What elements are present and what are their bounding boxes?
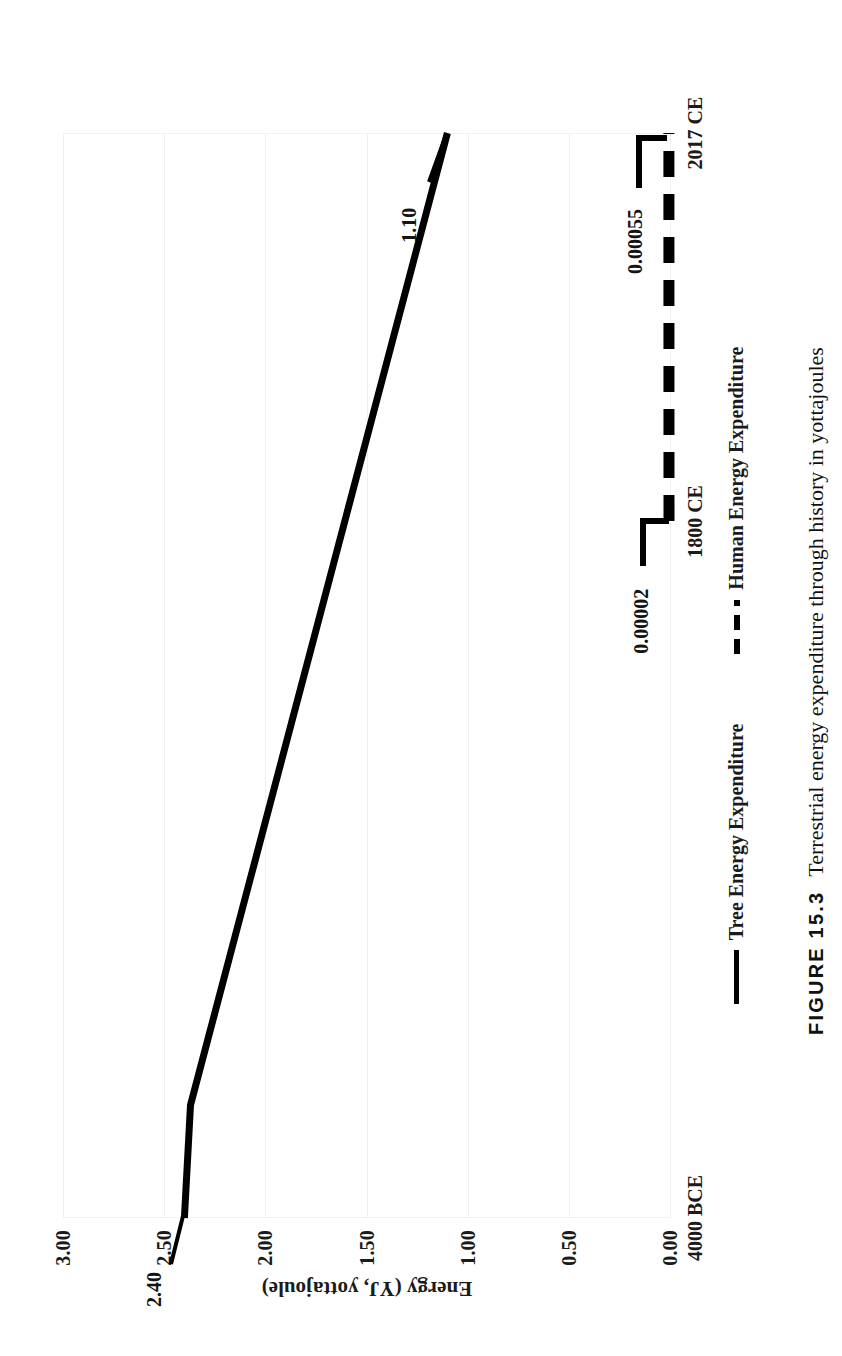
xtick-label-1800-ce: 1800 CE — [684, 485, 707, 558]
ytick-label-1-00: 1.00 — [456, 1230, 479, 1266]
figure-caption-text: Terrestrial energy expenditure through h… — [803, 347, 829, 877]
legend-item-tree-energy-expenditure[interactable]: Tree Energy Expenditure — [725, 724, 748, 1005]
xtick-label-2017-ce: 2017 CE — [684, 97, 707, 170]
data-label-human-1800: 0.00002 — [629, 589, 652, 654]
leader-line-0-00055 — [639, 138, 667, 188]
y-axis-title: Energy (YJ, yottajoule) — [261, 1276, 472, 1301]
ytick-label-1-50: 1.50 — [355, 1230, 378, 1266]
chart-plot-area: 3.00 2.50 2.00 1.50 1.00 0.50 0.00 Energ… — [63, 133, 670, 1218]
xtick-label-4000-bce: 4000 BCE — [684, 1175, 707, 1261]
legend-label-human-energy-expenditure: Human Energy Expenditure — [725, 347, 748, 590]
legend-key-dashed-line-icon — [734, 600, 740, 654]
ytick-label-0-50: 0.50 — [557, 1230, 580, 1266]
data-label-tree-end: 1.10 — [397, 208, 420, 243]
figure-page: 3.00 2.50 2.00 1.50 1.00 0.50 0.00 Energ… — [0, 0, 842, 1356]
leader-line-0-00002 — [643, 521, 669, 566]
figure-number: FIGURE 15.3 — [805, 891, 828, 1035]
chart-legend: Tree Energy Expenditure Human Energy Exp… — [725, 133, 748, 1218]
legend-item-human-energy-expenditure[interactable]: Human Energy Expenditure — [725, 347, 748, 654]
data-label-human-2017: 0.00055 — [624, 209, 647, 274]
ytick-label-3-00: 3.00 — [52, 1230, 75, 1266]
ytick-label-2-00: 2.00 — [254, 1230, 277, 1266]
series-layer — [63, 133, 670, 1218]
legend-key-solid-line-icon — [734, 950, 739, 1004]
legend-label-tree-energy-expenditure: Tree Energy Expenditure — [725, 724, 748, 941]
figure-caption: FIGURE 15.3 Terrestrial energy expenditu… — [803, 347, 829, 1035]
data-label-tree-start: 2.40 — [143, 1272, 166, 1307]
rotated-figure-stage: 3.00 2.50 2.00 1.50 1.00 0.50 0.00 Energ… — [29, 44, 729, 1304]
ytick-label-0-00: 0.00 — [659, 1230, 682, 1266]
series-line-tree-energy-expenditure — [184, 133, 447, 1218]
